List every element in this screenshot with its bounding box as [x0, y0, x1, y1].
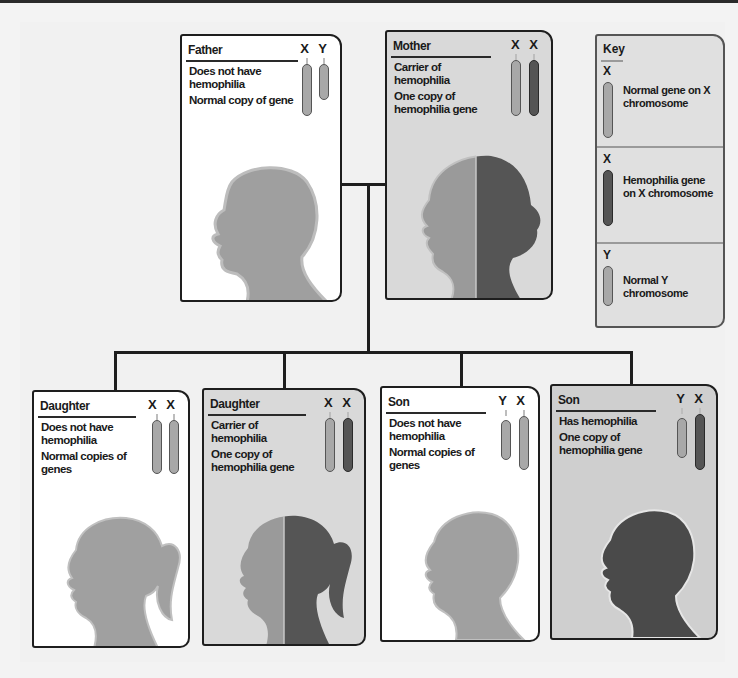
card-title: Father	[188, 43, 222, 57]
key-item-label: X	[603, 64, 611, 78]
key-item-label: Y	[603, 248, 611, 262]
normal-x-chromosome-icon	[511, 60, 521, 116]
son-1-card: Son Y X Does not have hemophilia Normal …	[380, 386, 540, 642]
couple-connector	[342, 183, 386, 186]
title-rule	[208, 414, 306, 416]
y-chromosome-icon	[501, 420, 511, 460]
card-description: Carrier of hemophilia One copy of hemoph…	[394, 61, 494, 119]
card-description: Does not have hemophilia Normal copies o…	[389, 417, 493, 475]
gene-note: Normal copies of genes	[41, 450, 141, 476]
status-text: Carrier of hemophilia	[211, 419, 311, 445]
normal-x-chromosome-icon	[302, 64, 312, 116]
card-description: Does not have hemophilia Normal copy of …	[189, 65, 301, 110]
card-title: Daughter	[40, 399, 89, 413]
gene-note: Normal copy of gene	[189, 94, 301, 107]
chromosome-labels: Y X	[676, 391, 706, 406]
status-text: Does not have hemophilia	[389, 417, 493, 443]
hemophilia-x-chromosome-icon	[529, 60, 539, 116]
gene-note: Normal copies of genes	[389, 446, 493, 472]
hemophilia-x-chromosome-icon	[343, 418, 353, 472]
boy-silhouette-icon	[400, 506, 530, 640]
chromosome-labels: X X	[324, 395, 354, 410]
normal-x-chromosome-icon	[325, 418, 335, 472]
girl-silhouette-icon	[46, 510, 186, 648]
normal-x-chromosome-icon	[152, 420, 162, 474]
gene-note: One copy of hemophilia gene	[559, 431, 655, 457]
title-rule	[38, 416, 136, 418]
adult-male-silhouette-icon	[192, 162, 332, 302]
key-item-label: X	[603, 152, 611, 166]
hemophilia-x-chromosome-icon	[695, 414, 705, 470]
y-chromosome-icon	[319, 64, 329, 100]
normal-x-chromosome-icon	[519, 416, 529, 470]
daughter-1-card: Daughter X X Does not have hemophilia No…	[32, 390, 190, 648]
status-text: Has hemophilia	[559, 415, 655, 428]
card-description: Has hemophilia One copy of hemophilia ge…	[559, 415, 655, 460]
drop-daughter-2	[283, 351, 286, 389]
key-title: Key	[603, 42, 625, 56]
adult-female-half-carrier-silhouette-icon	[401, 150, 551, 300]
title-rule	[556, 410, 656, 412]
drop-son-1	[460, 351, 463, 387]
descent-line	[367, 183, 370, 353]
chromosome-labels: X X	[511, 37, 541, 52]
status-text: Carrier of hemophilia	[394, 61, 494, 87]
y-chromosome-icon	[603, 266, 613, 306]
gene-note: One copy of hemophilia gene	[394, 90, 494, 116]
girl-half-carrier-silhouette-icon	[218, 508, 364, 646]
pedigree-diagram: Father X Y Does not have hemophilia Norm…	[20, 22, 725, 662]
normal-x-chromosome-icon	[169, 420, 179, 474]
boy-affected-silhouette-icon	[576, 504, 706, 638]
card-title: Daughter	[210, 397, 259, 411]
card-description: Carrier of hemophilia One copy of hemoph…	[211, 419, 311, 477]
top-border-line	[0, 0, 738, 3]
hemophilia-x-chromosome-icon	[603, 170, 613, 226]
legend-key: Key X Normal gene on X chromosome X Hemo…	[595, 34, 725, 328]
card-description: Does not have hemophilia Normal copies o…	[41, 421, 141, 479]
title-rule	[386, 412, 486, 414]
status-text: Does not have hemophilia	[189, 65, 301, 91]
card-title: Mother	[393, 39, 431, 53]
key-item-text: Normal Y chromosome	[623, 274, 719, 300]
y-chromosome-icon	[677, 418, 687, 458]
key-item-text: Hemophilia gene on X chromosome	[623, 174, 719, 200]
mother-card: Mother X X Carrier of hemophilia One cop…	[385, 30, 553, 300]
drop-daughter-1	[114, 351, 117, 391]
title-rule	[391, 56, 491, 58]
daughter-2-card: Daughter X X Carrier of hemophilia One c…	[202, 388, 366, 646]
card-title: Son	[388, 395, 409, 409]
card-title: Son	[558, 393, 579, 407]
normal-x-chromosome-icon	[603, 82, 613, 138]
son-2-card: Son Y X Has hemophilia One copy of hemop…	[550, 384, 718, 640]
title-rule	[186, 60, 298, 62]
sibling-line	[114, 351, 632, 354]
key-item-text: Normal gene on X chromosome	[623, 84, 719, 110]
chromosome-labels: X X	[148, 397, 178, 412]
status-text: Does not have hemophilia	[41, 421, 141, 447]
drop-son-2	[630, 351, 633, 385]
gene-note: One copy of hemophilia gene	[211, 448, 311, 474]
father-card: Father X Y Does not have hemophilia Norm…	[180, 34, 342, 302]
chromosome-labels: Y X	[498, 393, 528, 408]
chromosome-labels: X Y	[300, 41, 330, 56]
